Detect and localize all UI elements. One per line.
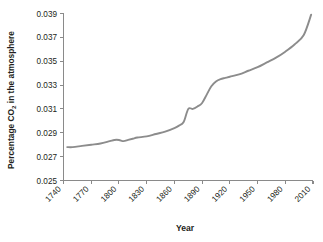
- x-tick-labels: 1740177018001830186018901920195019802010: [44, 184, 313, 204]
- co2-line-chart: 0.0250.0270.0290.0310.0330.0350.0370.039…: [0, 0, 323, 242]
- y-axis: 0.0250.0270.0290.0310.0330.0350.0370.039: [37, 10, 64, 186]
- y-tick-label: 0.027: [37, 153, 58, 162]
- y-tick-label: 0.029: [37, 129, 58, 138]
- x-tick-label: 1980: [265, 184, 285, 204]
- x-axis: 1740177018001830186018901920195019802010: [44, 181, 313, 204]
- x-tick-label: 1830: [127, 184, 147, 204]
- x-tick-label: 1740: [44, 184, 64, 204]
- x-tick-label: 1920: [210, 184, 230, 204]
- x-tick-label: 1860: [155, 184, 175, 204]
- y-tick-labels: 0.0250.0270.0290.0310.0330.0350.0370.039: [37, 10, 58, 186]
- y-tick-label: 0.039: [37, 10, 58, 19]
- y-tick-label: 0.035: [37, 57, 58, 66]
- y-tick-label: 0.025: [37, 177, 58, 186]
- x-tick-label: 1800: [99, 184, 119, 204]
- co2-trend-line: [67, 15, 311, 147]
- y-tick-label: 0.033: [37, 81, 58, 90]
- chart-canvas: 0.0250.0270.0290.0310.0330.0350.0370.039…: [0, 0, 323, 242]
- x-tick-label: 1890: [182, 184, 202, 204]
- x-tick-label: 1770: [71, 184, 91, 204]
- data-series-group: [67, 15, 311, 147]
- y-axis-title-text: Percentage CO2 in the atmosphere: [6, 31, 17, 169]
- x-tick-label: 1950: [238, 184, 258, 204]
- y-axis-title: Percentage CO2 in the atmosphere: [6, 31, 17, 169]
- y-tick-label: 0.037: [37, 33, 58, 42]
- x-tick-label: 2010: [293, 184, 313, 204]
- x-axis-title-text: Year: [176, 223, 195, 233]
- y-tick-label: 0.031: [37, 105, 58, 114]
